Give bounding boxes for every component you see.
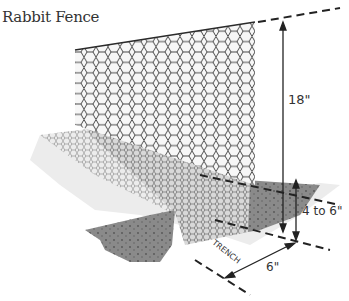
rabbit-fence-illustration [0, 0, 349, 301]
fence-height-label: 18" [288, 92, 311, 107]
trench-depth-label: 4 to 6" [302, 204, 342, 218]
trench-width-label: 6" [266, 260, 279, 274]
